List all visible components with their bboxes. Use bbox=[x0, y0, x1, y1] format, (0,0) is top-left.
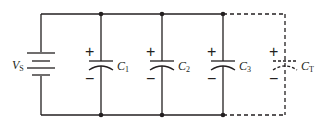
c2-label: C2 bbox=[178, 59, 190, 74]
capacitor-ct-symbol bbox=[273, 61, 297, 70]
c3-minus-sign: − bbox=[207, 70, 216, 87]
battery-symbol bbox=[27, 53, 55, 75]
c2-minus-sign: − bbox=[146, 70, 155, 87]
c1-minus-sign: − bbox=[85, 70, 94, 87]
ct-minus-sign: − bbox=[269, 70, 278, 87]
solid-wires bbox=[41, 14, 223, 115]
c1-label: C1 bbox=[117, 59, 129, 74]
dashed-wires bbox=[223, 14, 285, 115]
c3-plus-sign: + bbox=[207, 43, 216, 60]
ct-plus-sign: + bbox=[269, 43, 278, 60]
c1-plus-sign: + bbox=[85, 43, 94, 60]
c2-plus-sign: + bbox=[146, 43, 155, 60]
source-label: VS bbox=[12, 58, 24, 73]
c3-label: C3 bbox=[239, 59, 251, 74]
ct-label: CT bbox=[301, 59, 314, 74]
parallel-capacitor-circuit: VS + − C1 + − C2 + − C3 + − CT bbox=[0, 0, 324, 124]
